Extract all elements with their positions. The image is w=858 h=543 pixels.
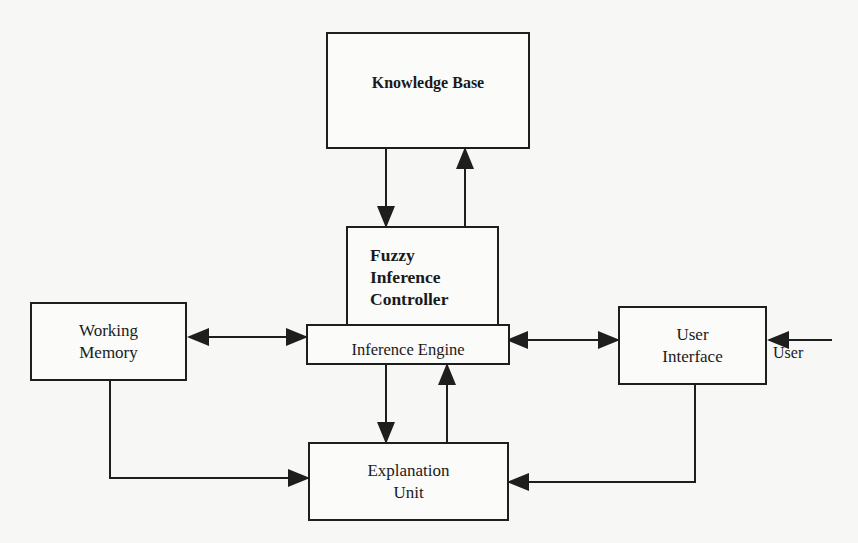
fic-label-line-3: Controller xyxy=(370,288,448,310)
user-interface-box: User Interface xyxy=(618,306,767,385)
arrow-wm-to-eu xyxy=(110,381,308,478)
eu-label-line-2: Unit xyxy=(367,482,449,504)
wm-label-line-1: Working xyxy=(79,320,138,342)
knowledge-base-box: Knowledge Base xyxy=(326,32,530,149)
ui-label-line-2: Interface xyxy=(662,346,722,368)
arrow-ui-to-eu xyxy=(509,385,695,482)
eu-label-line-1: Explanation xyxy=(367,460,449,482)
fuzzy-inference-controller-box: Fuzzy Inference Controller xyxy=(346,226,499,327)
inference-engine-label: Inference Engine xyxy=(351,339,464,361)
working-memory-box: Working Memory xyxy=(30,302,187,381)
wm-label-line-2: Memory xyxy=(79,342,138,364)
explanation-unit-box: Explanation Unit xyxy=(308,442,509,521)
ui-label-line-1: User xyxy=(662,324,722,346)
knowledge-base-label: Knowledge Base xyxy=(372,72,484,94)
fic-label-line-2: Inference xyxy=(370,266,448,288)
diagram-canvas: Knowledge Base Fuzzy Inference Controlle… xyxy=(0,0,858,543)
inference-engine-box: Inference Engine xyxy=(306,324,510,365)
fic-label-line-1: Fuzzy xyxy=(370,244,448,266)
external-user-label: User xyxy=(773,344,803,362)
